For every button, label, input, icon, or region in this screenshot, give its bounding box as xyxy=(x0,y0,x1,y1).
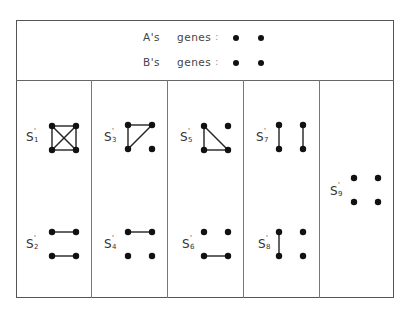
gene-node xyxy=(73,229,79,235)
gene-node xyxy=(49,253,55,259)
gene-node xyxy=(49,147,55,153)
gene-node xyxy=(276,253,282,259)
gene-node xyxy=(276,122,282,128)
state-graphs xyxy=(0,0,413,312)
gene-node xyxy=(149,229,155,235)
gene-node xyxy=(125,229,131,235)
gene-node xyxy=(201,229,207,235)
gene-node xyxy=(201,147,207,153)
gene-node xyxy=(300,253,306,259)
gene-node xyxy=(276,146,282,152)
gene-node xyxy=(125,146,131,152)
gene-node xyxy=(149,122,155,128)
gene-node xyxy=(125,253,131,259)
gene-node xyxy=(351,199,357,205)
gene-node xyxy=(73,147,79,153)
state-graph-s6 xyxy=(201,229,231,259)
gene-node xyxy=(375,175,381,181)
gene-node xyxy=(201,123,207,129)
gene-node xyxy=(300,122,306,128)
gene-node xyxy=(49,229,55,235)
gene-node xyxy=(225,229,231,235)
state-graph-s7 xyxy=(276,122,306,152)
gene-node xyxy=(276,229,282,235)
gene-node xyxy=(73,123,79,129)
gene-node xyxy=(300,229,306,235)
state-graph-s9 xyxy=(351,175,381,205)
gene-node xyxy=(49,123,55,129)
gene-node xyxy=(201,253,207,259)
gene-node xyxy=(300,146,306,152)
state-graph-s3 xyxy=(125,122,155,152)
gene-node xyxy=(149,253,155,259)
gene-node xyxy=(375,199,381,205)
gene-node xyxy=(225,123,231,129)
gene-node xyxy=(149,146,155,152)
state-graph-s5 xyxy=(201,123,231,153)
edge xyxy=(204,126,228,150)
gene-node xyxy=(225,253,231,259)
gene-node xyxy=(73,253,79,259)
state-graph-s2 xyxy=(49,229,79,259)
edge xyxy=(128,125,152,149)
state-graph-s8 xyxy=(276,229,306,259)
gene-node xyxy=(225,147,231,153)
gene-node xyxy=(125,122,131,128)
state-graph-s4 xyxy=(125,229,155,259)
gene-node xyxy=(351,175,357,181)
state-graph-s1 xyxy=(49,123,79,153)
